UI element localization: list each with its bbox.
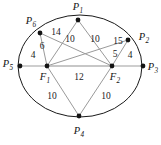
edge-weight-p2-f2: 5 <box>113 49 118 59</box>
vertex-dot-p1 <box>76 18 81 23</box>
edge-weight-p1-f2: 10 <box>90 34 100 44</box>
edge-weight-p6-f1: 6 <box>40 41 45 51</box>
vertex-dot-p3 <box>141 64 146 69</box>
edge-weight-f2-p4: 10 <box>101 91 111 101</box>
ellipse-diagram-root: 146410101554121010 P1P2P3P4P5P6F1F2 <box>0 0 161 145</box>
vertex-label-p1: P1 <box>72 1 83 14</box>
edge-weight-f2-p3: 4 <box>128 50 133 60</box>
vertex-label-p2: P2 <box>138 31 150 44</box>
edge-weight-f1-p4: 10 <box>47 91 57 101</box>
vertex-dot-p6 <box>38 31 43 36</box>
edge-weight-p1-f1: 10 <box>65 34 75 44</box>
edge-weight-f1-f2: 12 <box>74 72 84 82</box>
vertex-dot-p2 <box>126 38 131 43</box>
vertex-dot-f1 <box>45 64 50 69</box>
vertex-dot-group <box>18 18 146 119</box>
edge-weight-p5-f1: 4 <box>31 50 36 60</box>
vertex-dot-f2 <box>110 64 115 69</box>
edge-weight-p2-f1: 15 <box>113 36 123 46</box>
vertex-label-f2: F2 <box>109 71 121 84</box>
edge-weight-p6-f2: 14 <box>51 27 61 37</box>
vertex-label-p6: P6 <box>25 15 37 28</box>
vertex-label-p3: P3 <box>147 61 159 74</box>
vertex-label-p5: P5 <box>2 58 14 71</box>
vertex-label-f1: F1 <box>39 71 50 84</box>
ellipse-figure-svg: 146410101554121010 P1P2P3P4P5P6F1F2 <box>0 0 161 145</box>
vertex-label-p4: P4 <box>73 125 85 138</box>
vertex-dot-p4 <box>77 114 82 119</box>
vertex-dot-p5 <box>18 64 23 69</box>
